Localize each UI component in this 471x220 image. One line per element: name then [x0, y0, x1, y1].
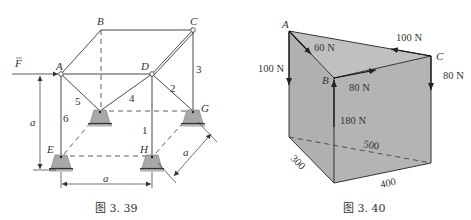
member-4-label: 4 — [129, 92, 135, 104]
figure-caption-left: 图 3. 39 — [95, 202, 138, 215]
force-A-down-label: 100 N — [258, 63, 284, 74]
node-D-label: D — [140, 60, 149, 72]
node-H-label: H — [139, 143, 149, 155]
node-G-label: G — [201, 102, 209, 114]
node-A-label: A — [55, 60, 63, 72]
support-H — [140, 155, 164, 172]
joint-A — [59, 72, 64, 77]
dim-depth-label: a — [183, 146, 189, 158]
dim-height-label: a — [30, 116, 36, 128]
force-F-label: F — [14, 57, 22, 69]
node-E-label: E — [46, 143, 54, 155]
figure-caption-right: 图 3. 40 — [343, 202, 386, 215]
node-B-label: B — [97, 15, 104, 27]
node-B-label: B — [322, 74, 329, 86]
member-5-label: 5 — [75, 95, 81, 107]
dim-width-label: 400 — [379, 176, 397, 190]
joint-D — [150, 72, 155, 77]
dim-width-label: a — [103, 172, 109, 184]
member-6-label: 6 — [63, 112, 69, 124]
force-CA-label: 100 N — [396, 32, 422, 43]
dim-depth-label: 300 — [289, 153, 308, 172]
force-B-up-label: 180 N — [340, 115, 366, 126]
node-A-label: A — [281, 18, 289, 30]
diagram-canvas: F B C A D G E H 1 2 3 4 5 6 a a a 图 3. 3… — [0, 0, 471, 220]
node-C-label: C — [190, 15, 198, 27]
node-C-label: C — [436, 50, 444, 62]
prism-figure: A B C 100 N 60 N 100 N 80 N 80 N 180 N 5… — [258, 18, 464, 215]
space-truss-figure: F B C A D G E H 1 2 3 4 5 6 a a a 图 3. 3… — [12, 15, 217, 215]
support-E — [49, 155, 73, 172]
joint-C — [191, 28, 196, 33]
member-1-label: 1 — [142, 124, 148, 136]
force-AB-label: 60 N — [314, 42, 335, 53]
support-middle-back — [88, 110, 112, 127]
force-BC-label: 80 N — [349, 82, 370, 93]
member-2-label: 2 — [170, 82, 176, 94]
force-C-down-label: 80 N — [443, 70, 464, 81]
member-3-label: 3 — [196, 63, 202, 75]
